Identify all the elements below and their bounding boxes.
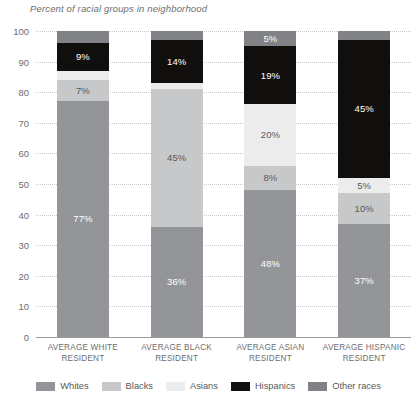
- bar-segment-value-label: 45%: [167, 153, 186, 163]
- bar-segment-value-label: 14%: [167, 57, 186, 67]
- x-axis-label-3: AVERAGE ASIAN RESIDENT: [216, 342, 324, 364]
- bar-segment-value-label: 48%: [261, 259, 280, 269]
- bar-segment-hispanics[interactable]: 9%: [57, 43, 109, 71]
- bar-segment-asians[interactable]: 20%: [244, 104, 296, 165]
- bar-segment-whites[interactable]: 48%: [244, 190, 296, 337]
- bar-segment-asians[interactable]: [57, 71, 109, 80]
- y-tick-label-0: 0: [24, 332, 29, 343]
- y-tick-label-100: 100: [13, 26, 29, 37]
- x-axis-label-1: AVERAGE WHITE RESIDENT: [29, 342, 137, 364]
- bar-segment-value-label: 45%: [355, 104, 374, 114]
- bar-segment-value-label: 20%: [261, 130, 280, 140]
- y-tick-label-70: 70: [18, 117, 29, 128]
- bar-segment-hispanics[interactable]: 45%: [338, 40, 390, 178]
- bar-segment-other-races[interactable]: [151, 31, 203, 40]
- legend-swatch-icon: [231, 382, 250, 391]
- y-tick-label-90: 90: [18, 56, 29, 67]
- bar-segment-other-races[interactable]: 5%: [244, 31, 296, 46]
- bar-4[interactable]: 37%10%5%45%: [338, 31, 390, 337]
- bar-segment-blacks[interactable]: 8%: [244, 166, 296, 190]
- legend-item-hispanics[interactable]: Hispanics: [231, 381, 295, 391]
- bar-segment-other-races[interactable]: [338, 31, 390, 40]
- bar-segment-hispanics[interactable]: 19%: [244, 46, 296, 104]
- bar-segment-blacks[interactable]: 10%: [338, 193, 390, 224]
- gridline-0: [36, 337, 411, 338]
- y-tick-label-30: 30: [18, 240, 29, 251]
- chart-legend: WhitesBlacksAsiansHispanicsOther races: [0, 381, 417, 391]
- bar-segment-value-label: 7%: [76, 86, 90, 96]
- bar-1[interactable]: 77%7%9%: [57, 31, 109, 337]
- bar-segment-whites[interactable]: 36%: [151, 227, 203, 337]
- legend-item-other-races[interactable]: Other races: [308, 381, 381, 391]
- bar-segment-whites[interactable]: 37%: [338, 224, 390, 337]
- legend-label: Blacks: [126, 381, 153, 391]
- y-tick-label-10: 10: [18, 301, 29, 312]
- legend-label: Other races: [332, 381, 381, 391]
- bar-segment-blacks[interactable]: 45%: [151, 89, 203, 227]
- y-tick-label-50: 50: [18, 179, 29, 190]
- bar-segment-value-label: 19%: [261, 71, 280, 81]
- bar-segment-value-label: 5%: [357, 181, 371, 191]
- bar-segment-value-label: 5%: [264, 34, 278, 44]
- legend-swatch-icon: [102, 382, 121, 391]
- legend-label: Asians: [190, 381, 218, 391]
- legend-swatch-icon: [36, 382, 55, 391]
- legend-swatch-icon: [166, 382, 185, 391]
- chart-title: Percent of racial groups in neighborhood: [30, 3, 207, 14]
- bar-segment-value-label: 77%: [73, 214, 92, 224]
- bar-2[interactable]: 36%45%14%: [151, 31, 203, 337]
- legend-swatch-icon: [308, 382, 327, 391]
- legend-item-whites[interactable]: Whites: [36, 381, 88, 391]
- x-axis-label-2: AVERAGE BLACK RESIDENT: [123, 342, 231, 364]
- y-tick-label-60: 60: [18, 148, 29, 159]
- bar-segment-value-label: 8%: [264, 173, 278, 183]
- y-tick-label-80: 80: [18, 87, 29, 98]
- bar-segment-value-label: 36%: [167, 277, 186, 287]
- bar-3[interactable]: 48%8%20%19%5%: [244, 31, 296, 337]
- y-tick-label-20: 20: [18, 270, 29, 281]
- bar-segment-asians[interactable]: 5%: [338, 178, 390, 193]
- plot-area: 1009080706050403020100 77%7%9%36%45%14%4…: [36, 31, 411, 337]
- bar-segment-value-label: 9%: [76, 52, 90, 62]
- legend-item-blacks[interactable]: Blacks: [102, 381, 153, 391]
- x-axis-label-4: AVERAGE HISPANIC RESIDENT: [310, 342, 417, 364]
- bar-segment-whites[interactable]: 77%: [57, 101, 109, 337]
- legend-label: Whites: [60, 381, 88, 391]
- bar-segment-other-races[interactable]: [57, 31, 109, 43]
- bar-segment-value-label: 37%: [355, 276, 374, 286]
- legend-item-asians[interactable]: Asians: [166, 381, 218, 391]
- bar-segment-hispanics[interactable]: 14%: [151, 40, 203, 83]
- bar-segment-blacks[interactable]: 7%: [57, 80, 109, 101]
- y-tick-label-40: 40: [18, 209, 29, 220]
- bar-segment-value-label: 10%: [355, 204, 374, 214]
- legend-label: Hispanics: [255, 381, 295, 391]
